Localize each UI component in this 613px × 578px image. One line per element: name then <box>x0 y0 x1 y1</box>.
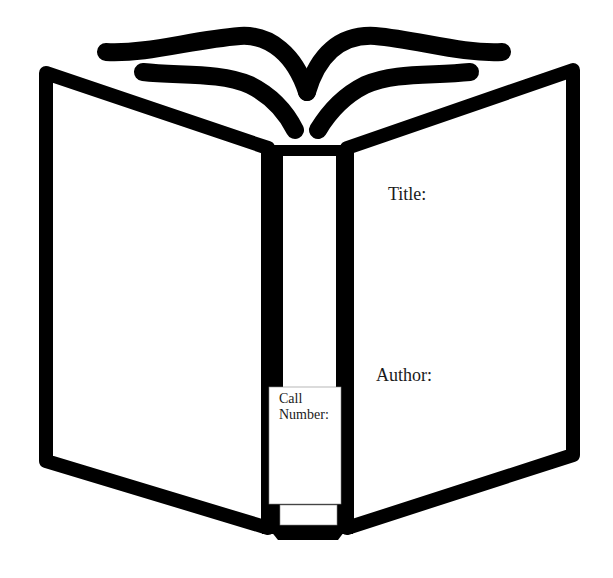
open-book-icon <box>0 0 613 578</box>
call-number-label: Call Number: <box>279 391 329 423</box>
call-number-label-line2: Number: <box>279 407 329 423</box>
call-number-label-line1: Call <box>279 391 329 407</box>
title-label: Title: <box>388 185 426 203</box>
spine-inner <box>283 156 336 388</box>
left-cover <box>46 73 268 528</box>
author-label: Author: <box>376 366 432 384</box>
right-cover <box>347 70 573 528</box>
spine-bottom-slot <box>280 505 337 525</box>
book-worksheet: Title: Author: Call Number: <box>0 0 613 578</box>
